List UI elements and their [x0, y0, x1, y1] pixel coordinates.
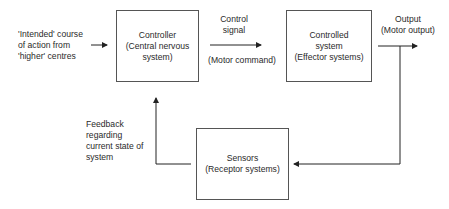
control-signal-line-2: signal — [213, 25, 255, 36]
feedback-line-3: current state of — [86, 141, 143, 152]
controller-box: Controller (Central nervous system) — [116, 10, 199, 82]
controlled-system-box: Controlled system (Effector systems) — [286, 10, 372, 82]
motor-command-label: (Motor command) — [204, 55, 280, 66]
feedback-label: Feedback regarding current state of syst… — [86, 119, 143, 163]
input-label: 'Intended' course of action from 'higher… — [18, 29, 83, 62]
controller-subtitle-2: system) — [142, 52, 172, 63]
sensors-box: Sensors (Receptor systems) — [196, 128, 289, 200]
feedback-line-2: regarding — [86, 130, 143, 141]
output-line-1: Output — [372, 14, 444, 25]
controller-title: Controller — [139, 30, 176, 41]
sensors-subtitle: (Receptor systems) — [205, 164, 280, 175]
input-line-1: 'Intended' course — [18, 29, 83, 40]
controlled-system-title-1: Controlled — [309, 30, 348, 41]
feedback-line-1: Feedback — [86, 119, 143, 130]
output-line-2: (Motor output) — [372, 25, 444, 36]
controlled-system-title-2: system — [315, 41, 342, 52]
input-line-2: of action from — [18, 40, 83, 51]
input-line-3: 'higher' centres — [18, 51, 83, 62]
controller-subtitle-1: (Central nervous — [126, 41, 190, 52]
output-label: Output (Motor output) — [372, 14, 444, 36]
feedback-line-4: system — [86, 152, 143, 163]
feedback-line — [156, 98, 191, 164]
control-signal-line-1: Control — [213, 14, 255, 25]
control-loop-diagram: 'Intended' course of action from 'higher… — [0, 0, 449, 209]
control-signal-label: Control signal — [213, 14, 255, 36]
sensors-title: Sensors — [227, 153, 259, 164]
controlled-system-subtitle: (Effector systems) — [294, 52, 363, 63]
